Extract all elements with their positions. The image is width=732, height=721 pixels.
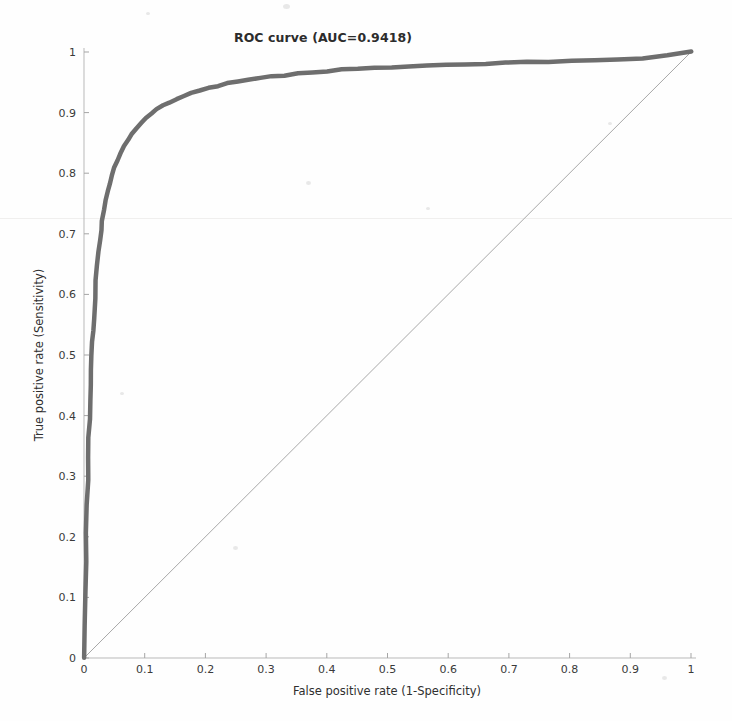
x-tick-label: 0.6 [439,663,457,676]
y-tick-label: 0.9 [52,106,76,119]
x-tick-label: 0 [81,663,88,676]
x-tick-label: 0.8 [561,663,579,676]
plot-area [0,0,732,721]
x-tick-label: 0.9 [622,663,640,676]
x-tick-label: 0.5 [379,663,397,676]
y-tick-label: 0.8 [52,167,76,180]
roc-curve-figure: ROC curve (AUC=0.9418) 00.10.20.30.40.50… [0,0,732,721]
y-tick-label: 0.2 [52,530,76,543]
y-tick-label: 0.3 [52,470,76,483]
x-tick-label: 0.1 [136,663,154,676]
y-tick-label: 0.7 [52,227,76,240]
x-tick-label: 0.7 [500,663,518,676]
x-axis-title: False positive rate (1-Specificity) [293,684,481,698]
y-tick-label: 1 [52,46,76,59]
y-tick-label: 0.4 [52,409,76,422]
x-tick-label: 0.2 [197,663,215,676]
y-tick-label: 0.1 [52,591,76,604]
x-tick-label: 0.4 [318,663,336,676]
y-axis-title: True positive rate (Sensitivity) [32,269,46,442]
y-tick-label: 0.5 [52,349,76,362]
y-tick-label: 0 [52,652,76,665]
y-tick-label: 0.6 [52,288,76,301]
chance-diagonal-line [84,52,691,658]
x-tick-label: 1 [688,663,695,676]
x-tick-label: 0.3 [257,663,275,676]
